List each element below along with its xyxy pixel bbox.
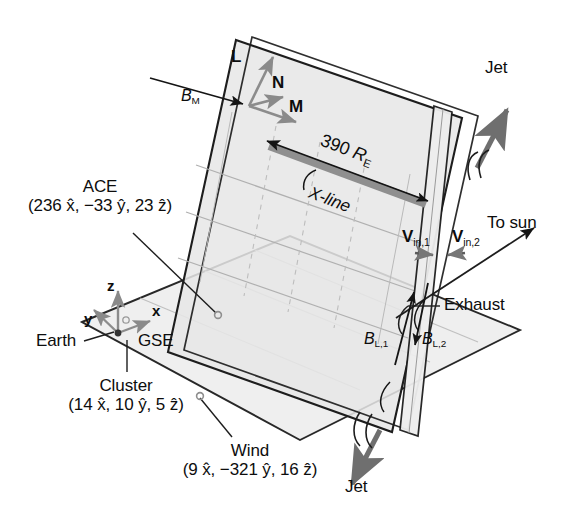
b-l1-label: BL,1 <box>364 330 388 348</box>
l-axis-label: L <box>231 47 241 66</box>
b-m-base: B <box>181 87 192 104</box>
z-axis-label: z <box>107 278 114 295</box>
v-in-2-label: Vin,2 <box>452 227 480 246</box>
n-axis-label: N <box>272 73 284 92</box>
b-l2-base: B <box>422 330 433 347</box>
reconnection-geometry-figure: L N M BM 390 RE X-line Jet Jet To sun Ex… <box>0 0 574 513</box>
b-l1-base: B <box>364 330 375 347</box>
b-l2-label: BL,2 <box>422 330 446 348</box>
to-sun-label: To sun <box>487 213 537 232</box>
m-axis-label: M <box>289 97 303 116</box>
b-l2-sub: L,2 <box>433 338 446 349</box>
v-in-1-base: V <box>402 227 413 246</box>
v-in-1-sub: in,1 <box>413 236 430 248</box>
x-axis-label: x <box>152 303 160 320</box>
ace-name: ACE <box>10 177 190 196</box>
gse-label: GSE <box>138 331 174 350</box>
cluster-name: Cluster <box>36 376 216 395</box>
wind-spacecraft-label: Wind (9 x̂, −321 ŷ, 16 ẑ) <box>152 441 348 479</box>
v-in-2-base: V <box>452 227 463 246</box>
earth-label: Earth <box>36 331 76 350</box>
wind-position: (9 x̂, −321 ŷ, 16 ẑ) <box>152 460 348 479</box>
v-in-1-label: Vin,1 <box>402 227 430 246</box>
b-m-sub: M <box>192 95 200 106</box>
b-l1-sub: L,1 <box>375 338 388 349</box>
inflow-arrows <box>415 253 465 255</box>
exhaust-label: Exhaust <box>444 295 505 314</box>
ace-spacecraft-label: ACE (236 x̂, −33 ŷ, 23 ẑ) <box>10 177 190 215</box>
v-in-2-arrow <box>448 253 465 255</box>
cluster-position: (14 x̂, 10 ŷ, 5 ẑ) <box>36 395 216 414</box>
b-m-label: BM <box>181 87 200 105</box>
jet-bottom-label: Jet <box>345 477 367 496</box>
v-in-2-sub: in,2 <box>463 236 480 248</box>
y-axis-label: y <box>84 311 92 328</box>
wind-name: Wind <box>152 441 348 460</box>
jet-top-label: Jet <box>485 58 507 77</box>
cluster-spacecraft-label: Cluster (14 x̂, 10 ŷ, 5 ẑ) <box>36 376 216 414</box>
jet-top-arrow <box>468 110 507 180</box>
ace-position: (236 x̂, −33 ŷ, 23 ẑ) <box>10 196 190 215</box>
